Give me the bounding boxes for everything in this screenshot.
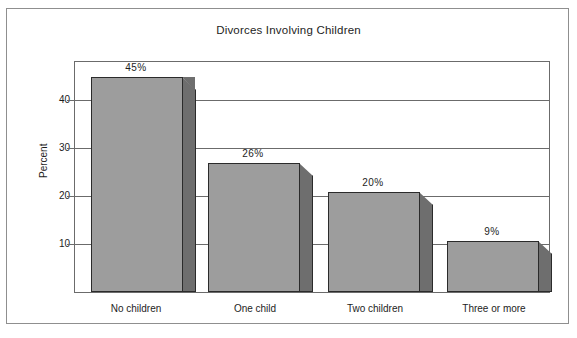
bar-front-face-no-children	[91, 77, 183, 292]
x-tick-label-no-children: No children	[71, 303, 201, 314]
bar-side-face-one-child	[299, 163, 313, 292]
bar-no-children[interactable]	[91, 77, 183, 292]
bar-value-one-child: 26%	[218, 148, 288, 159]
bar-front-face-two-children	[328, 192, 420, 292]
y-tick-mark-40	[67, 100, 74, 101]
bar-value-two-children: 20%	[338, 177, 408, 188]
x-tick-label-three-or-more: Three or more	[429, 303, 559, 314]
bar-two-children[interactable]	[328, 192, 420, 292]
bar-value-no-children: 45%	[101, 62, 171, 73]
x-tick-label-one-child: One child	[190, 303, 320, 314]
bar-front-face-three-or-more	[447, 241, 539, 292]
figure-canvas: Divorces Involving Children Percent 40 3…	[0, 0, 577, 338]
plot-area	[74, 61, 550, 293]
y-tick-mark-20	[67, 196, 74, 197]
bar-side-face-no-children	[182, 77, 196, 292]
bar-front-face-one-child	[208, 163, 300, 292]
bar-value-three-or-more: 9%	[457, 226, 527, 237]
bar-three-or-more[interactable]	[447, 241, 539, 292]
y-tick-mark-30	[67, 148, 74, 149]
bar-one-child[interactable]	[208, 163, 300, 292]
y-tick-mark-10	[67, 244, 74, 245]
x-tick-label-two-children: Two children	[310, 303, 440, 314]
bar-side-face-two-children	[419, 192, 433, 292]
bar-side-face-three-or-more	[538, 241, 552, 292]
chart-title: Divorces Involving Children	[0, 24, 577, 36]
